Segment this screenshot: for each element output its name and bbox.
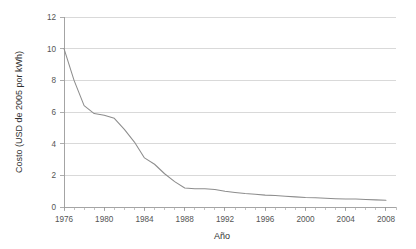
x-tick-label: 1988 — [176, 215, 195, 224]
x-tick-label: 1984 — [135, 215, 154, 224]
x-tick-label: 2000 — [296, 215, 315, 224]
series-line-costo — [64, 49, 386, 201]
x-tick-label: 2004 — [337, 215, 356, 224]
x-tick-label: 1980 — [95, 215, 114, 224]
gridlines — [64, 17, 396, 175]
y-axis-title: Costo (USD de 2005 por kWh) — [14, 51, 24, 173]
y-tick-marks — [60, 17, 64, 207]
x-major-tick-marks — [64, 207, 386, 211]
y-tick-label: 10 — [47, 45, 57, 54]
x-tick-label: 2008 — [377, 215, 396, 224]
y-tick-label: 8 — [51, 76, 56, 85]
y-tick-labels: 12 10 8 6 4 2 0 — [47, 13, 57, 212]
x-tick-label: 1976 — [55, 215, 74, 224]
y-tick-label: 2 — [51, 171, 56, 180]
y-tick-label: 12 — [47, 13, 57, 22]
y-tick-label: 4 — [51, 140, 56, 149]
y-tick-label: 0 — [51, 203, 56, 212]
x-tick-labels: 1976 1980 1984 1988 1992 1996 2000 2004 … — [55, 215, 396, 224]
y-tick-label: 6 — [51, 108, 56, 117]
line-chart: 12 10 8 6 4 2 0 1976 1980 1984 1988 1992… — [0, 0, 416, 249]
x-tick-label: 1996 — [256, 215, 275, 224]
x-tick-label: 1992 — [216, 215, 235, 224]
x-axis-title: Año — [214, 231, 230, 241]
chart-figure: 12 10 8 6 4 2 0 1976 1980 1984 1988 1992… — [0, 0, 416, 249]
